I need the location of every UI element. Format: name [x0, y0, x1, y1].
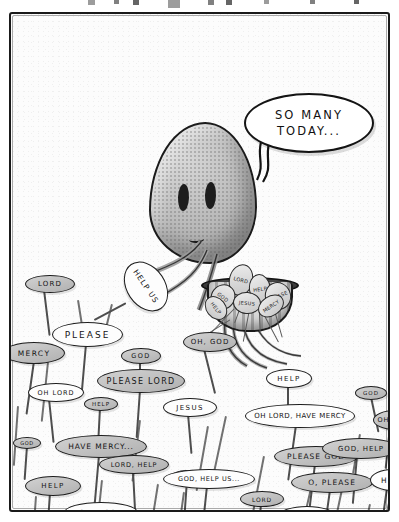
prayer-sign: GOD — [121, 348, 161, 364]
prayer-sign: OH, GOD — [183, 332, 237, 352]
prayer-sign-stick — [24, 446, 28, 480]
top-edge-mark — [310, 0, 315, 4]
prayer-sign: HELP US — [115, 253, 178, 320]
top-edge-mark — [88, 0, 95, 5]
prayer-sign: O, PLEASE — [291, 472, 373, 493]
top-edge-mark — [114, 0, 119, 4]
prayer-sign-stick — [97, 408, 100, 438]
prayer-sign: HELP — [25, 476, 81, 496]
octopus-creature — [149, 122, 261, 262]
prayer-sign: HELP — [266, 369, 312, 388]
prayer-sign-stick — [203, 349, 216, 394]
speech-balloon: SO MANY TODAY... — [244, 93, 374, 153]
prayer-sign: JESUS — [163, 398, 217, 417]
bare-stalk — [33, 496, 37, 512]
prayer-sign: PLEASE LORD — [97, 369, 185, 393]
top-edge-mark — [264, 0, 269, 4]
prayer-sign: OH... GOD — [64, 502, 138, 512]
speech-line-2: TODAY... — [277, 123, 341, 139]
prayer-sign-stick — [43, 290, 50, 336]
top-edge-mark — [226, 0, 232, 5]
prayer-sign: HELP — [370, 469, 390, 491]
speech-line-1: SO MANY — [275, 107, 343, 123]
prayer-sign: GOD, HELP — [322, 438, 390, 459]
bare-stalk — [150, 484, 159, 512]
top-edge-mark — [208, 0, 214, 5]
cartoon-panel: LORDHELPGODPLEASEJESUSHELPMERCY SO MANY … — [0, 0, 399, 522]
prayer-sign: HELP — [84, 397, 118, 411]
prayer-sign: OH LORD, HAVE MERCY — [245, 404, 355, 428]
prayer-sign: OH LORD — [28, 383, 84, 402]
prayer-sign: GOD, HELP US... — [163, 469, 255, 489]
prayer-sign: GOD — [13, 437, 41, 449]
prayer-sign: LORD — [25, 275, 75, 293]
prayer-sign-stick — [132, 471, 136, 512]
prayer-sign: LORD, HELP — [99, 455, 169, 474]
prayer-sign: PLEASE — [52, 322, 123, 347]
octopus-head — [149, 122, 257, 264]
bare-stalk — [363, 504, 371, 512]
prayer-sign: LORD — [240, 491, 284, 507]
top-edge-mark — [168, 0, 180, 8]
bare-stalk — [13, 406, 19, 466]
top-edge-mark — [354, 0, 359, 4]
panel-frame: LORDHELPGODPLEASEJESUSHELPMERCY SO MANY … — [9, 12, 390, 512]
prayer-sign-stick — [201, 486, 208, 512]
prayer-sign-stick — [187, 414, 192, 454]
top-edge-mark — [133, 0, 139, 5]
prayer-sign: MERCY — [9, 342, 65, 364]
prayer-sign: GOD — [355, 386, 387, 400]
prayer-sign-stick — [81, 344, 87, 394]
prayer-sign-stick — [48, 399, 54, 443]
